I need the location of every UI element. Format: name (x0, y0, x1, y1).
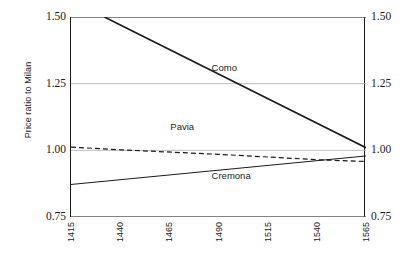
y-tick-label-right: 1.00 (371, 144, 391, 156)
series-label-pavia: Pavia (170, 121, 194, 132)
x-tick-label: 1490 (214, 222, 224, 242)
y-tick-label-left: 1.00 (46, 144, 66, 156)
plot-canvas (71, 17, 366, 217)
y-tick-label-left: 0.75 (46, 211, 66, 223)
series-label-cremona: Cremona (212, 170, 251, 181)
y-tick-label-left: 1.25 (46, 78, 66, 90)
y-tick-label-right: 1.25 (371, 78, 391, 90)
y-tick-label-left: 1.50 (46, 11, 66, 23)
plot-area (70, 17, 365, 217)
series-line-pavia (71, 147, 366, 161)
x-tick-label: 1415 (66, 222, 76, 242)
y-tick-label-right: 0.75 (371, 211, 391, 223)
chart-figure: Price ratio to Milan 0.751.001.251.50 0.… (0, 0, 413, 267)
series-line-como (104, 17, 366, 148)
y-axis-left-ticks: 0.751.001.251.50 (26, 0, 66, 267)
series-label-como: Como (212, 62, 237, 73)
x-tick-label: 1465 (164, 222, 174, 242)
y-tick-label-right: 1.50 (371, 11, 391, 23)
x-tick-label: 1515 (263, 222, 273, 242)
gridlines (71, 17, 366, 217)
series-lines (71, 17, 366, 184)
x-tick-label: 1540 (312, 222, 322, 242)
x-tick-label: 1565 (361, 222, 371, 242)
y-axis-right-ticks: 0.751.001.251.50 (371, 0, 413, 267)
x-tick-label: 1440 (115, 222, 125, 242)
